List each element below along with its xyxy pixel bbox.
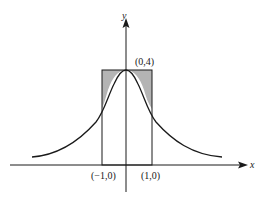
- point-label-top: (0,4): [135, 56, 154, 68]
- point-label-right: (1,0): [141, 170, 160, 182]
- curve: [32, 70, 222, 157]
- y-axis-label: y: [121, 10, 127, 21]
- figure: y x (0,4) (−1,0) (1,0): [0, 0, 267, 197]
- shaded-region-right: [126, 70, 152, 109]
- point-label-left: (−1,0): [91, 170, 116, 182]
- x-axis-label: x: [249, 159, 255, 170]
